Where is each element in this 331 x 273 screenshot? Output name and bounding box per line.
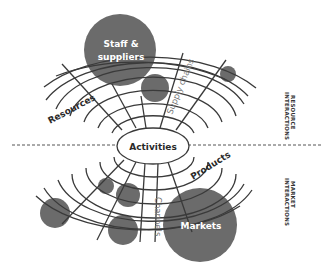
staff-suppliers-label-line1: Staff & <box>103 39 138 49</box>
products-label: Products <box>189 149 233 181</box>
resource-interactions-line2: INTERACTIONS <box>284 92 290 140</box>
activities-label: Activities <box>129 142 177 152</box>
channels-label: Channels <box>153 197 163 237</box>
staff-suppliers-label-line2: suppliers <box>98 52 145 62</box>
diagram-labels: Activities Staff & suppliers Resources S… <box>0 0 331 273</box>
supply-chains-label: Supply chains <box>165 57 197 116</box>
markets-label: Markets <box>181 221 222 231</box>
market-interactions-line2: INTERACTIONS <box>284 178 290 226</box>
resources-label: Resources <box>46 92 97 125</box>
